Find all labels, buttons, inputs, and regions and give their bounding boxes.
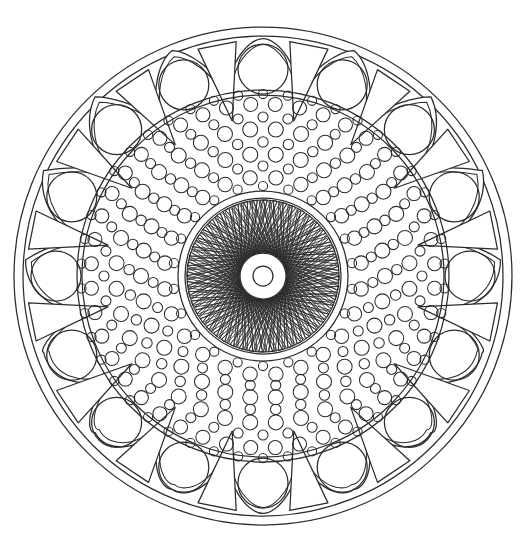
- center-hub: [240, 253, 286, 299]
- mandala-artwork: Mandala Coloring Page: [0, 0, 527, 553]
- hub-inner-circle: [253, 266, 273, 286]
